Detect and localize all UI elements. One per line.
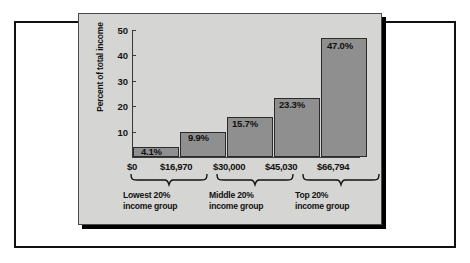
y-tick-mark-30 (132, 81, 136, 82)
x-tick-label-2: $16,970 (160, 161, 192, 172)
bar-value-label-3: 15.7% (232, 118, 258, 129)
brace-lowest-20 (129, 173, 209, 187)
group-label-top-20-line2: income group (295, 201, 349, 212)
group-label-middle-20-line2: income group (209, 201, 263, 212)
y-tick-label-10: 10 (106, 127, 128, 138)
bar-top-20 (321, 38, 367, 157)
y-axis-line (132, 30, 133, 158)
group-label-lowest-20-line1: Lowest 20% (123, 190, 170, 201)
x-tick-label-3: $30,000 (213, 161, 245, 172)
y-tick-label-50: 50 (106, 25, 128, 36)
bar-value-label-1: 4.1% (141, 146, 162, 157)
y-tick-mark-10 (132, 132, 136, 133)
group-label-middle-20-line1: Middle 20% (209, 190, 254, 201)
y-tick-mark-20 (132, 106, 136, 107)
y-axis-title: Percent of total income (95, 2, 105, 132)
chart-panel: Percent of total income 50 40 30 20 10 4… (78, 13, 382, 225)
x-tick-label-4: $45,030 (265, 161, 297, 172)
group-label-lowest-20-line2: income group (123, 201, 177, 212)
y-tick-label-30: 30 (106, 76, 128, 87)
y-tick-mark-50 (132, 30, 136, 31)
group-label-top-20-line1: Top 20% (295, 190, 328, 201)
brace-top-20 (301, 173, 381, 187)
brace-middle-20 (215, 173, 295, 187)
x-tick-label-1: $0 (127, 161, 137, 172)
x-axis-line (132, 157, 360, 158)
plot-area: Percent of total income 50 40 30 20 10 4… (79, 14, 383, 226)
y-tick-label-20: 20 (106, 101, 128, 112)
x-tick-label-5: $66,794 (317, 161, 349, 172)
bar-value-label-4: 23.3% (279, 99, 305, 110)
y-tick-mark-40 (132, 55, 136, 56)
y-tick-label-40: 40 (106, 50, 128, 61)
bar-value-label-5: 47.0% (327, 40, 353, 51)
bar-value-label-2: 9.9% (188, 132, 209, 143)
